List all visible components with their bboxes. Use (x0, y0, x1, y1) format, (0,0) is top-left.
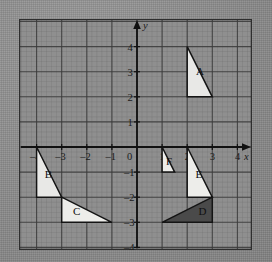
y-axis-name: y (142, 20, 148, 31)
grid-lines (19, 19, 252, 250)
shape-label-a: A (196, 65, 204, 77)
x-tick-label: 4 (235, 151, 241, 162)
shape-label-b: B (45, 168, 52, 180)
y-tick-label: –3 (123, 217, 135, 228)
shape-label-c: C (73, 205, 80, 217)
coordinate-plot: –4–3–2–112344321–1–2–3–40xyABCDEF (19, 19, 252, 250)
x-axis-name: x (243, 151, 249, 162)
y-tick-label: –4 (123, 242, 135, 250)
x-tick-label: –2 (79, 151, 91, 162)
x-tick-label: –3 (54, 151, 65, 162)
y-tick-label: 2 (128, 92, 133, 103)
y-tick-label: 1 (128, 117, 133, 128)
x-tick-label: –1 (104, 151, 116, 162)
y-tick-label: –2 (123, 192, 135, 203)
x-tick-label: 3 (210, 151, 215, 162)
origin-label: 0 (127, 151, 132, 162)
shape-label-e: E (195, 168, 202, 180)
y-tick-label: –1 (123, 167, 135, 178)
y-tick-label: 3 (128, 67, 133, 78)
figure-root: –4–3–2–112344321–1–2–3–40xyABCDEF (0, 0, 272, 262)
shape-label-d: D (199, 205, 207, 217)
coordinate-grid-svg: –4–3–2–112344321–1–2–3–40xyABCDEF (19, 19, 252, 250)
shape-label-f: F (166, 155, 172, 167)
y-tick-label: 4 (128, 42, 134, 53)
